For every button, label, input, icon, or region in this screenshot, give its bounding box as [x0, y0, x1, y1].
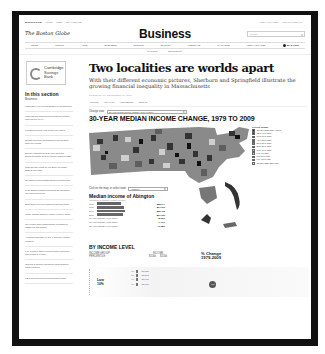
col-percentile: PERCENTILE: [89, 255, 110, 258]
byline: GLOBE STAFF DECEMBER 18, 2011: [89, 94, 307, 96]
sidebar-link[interactable]: Mass Dept's Commercial funds for trusted…: [25, 115, 73, 125]
nav-business[interactable]: BUSINESS: [104, 44, 116, 47]
sidebar-link[interactable]: Avoiding marriage in No. 1 unfilled Home…: [25, 236, 73, 246]
search-icon[interactable]: ⌕: [301, 32, 303, 37]
saved-icon: [283, 44, 286, 47]
sidebar-link[interactable]: GM report rises as Berkshire investment …: [25, 223, 73, 233]
sidebar-link[interactable]: Test says women members must support fur…: [25, 263, 73, 273]
sidebar-link[interactable]: L.C. Penney stock declines after reducin…: [25, 250, 73, 260]
nav-opinion[interactable]: OPINION: [160, 44, 170, 47]
income-scale-low: $100k: [149, 255, 156, 258]
income-graphic: Change view: 30-year median income chang…: [89, 110, 307, 310]
nav-news[interactable]: NEWS: [31, 44, 38, 47]
login-link[interactable]: LOG IN / SIGN UP: [282, 21, 302, 24]
col-change-years: 1979-2009: [201, 256, 221, 260]
sidebar-subheading: Business: [25, 97, 81, 101]
nav-metro[interactable]: METRO: [55, 44, 64, 47]
sidebar-link[interactable]: Motorists eyes on just Boston T-92 tamer…: [25, 105, 73, 112]
nav-magazine[interactable]: MAGAZINE: [217, 44, 230, 47]
tool-signin[interactable]: SIGN IN: [139, 101, 147, 103]
income-rows: 7923,526 8923,293 9923,788 0922,700: [129, 269, 149, 287]
tool-graphic[interactable]: GRAPHIC: [104, 101, 114, 103]
by-income-table: Low 10% 7923,526 8923,293 9923,788 0922,…: [89, 267, 309, 297]
by-income-columns: INCOME GROUP PERCENTILE INCOME $100k$200…: [89, 252, 309, 263]
sidebar-link[interactable]: RJ official counters$aid Boring controve…: [25, 179, 73, 186]
my-saved-label: MY SAVED: [287, 44, 299, 47]
legend-title: Percent change: [252, 126, 307, 128]
by-income-section: BY INCOME LEVEL INCOME GROUP PERCENTILE …: [89, 244, 309, 297]
cambridge-savings-ad[interactable]: Cambridge Savings Bank: [26, 61, 66, 85]
browser-page: BOSTON.COM HOME JOBS REAL ESTATE TODAY'S…: [19, 15, 311, 339]
income-scale-high: $200k: [160, 255, 167, 258]
cape-cod-map[interactable]: [197, 180, 247, 230]
change-view-select[interactable]: 30-year median income change, 1979 to 20…: [107, 110, 187, 114]
sidebar-link[interactable]: Stocks continue downward trend as Dow fa…: [25, 139, 73, 149]
tool-comments[interactable]: COMMENTS: [120, 101, 133, 103]
my-saved-button[interactable]: MY SAVED: [283, 44, 299, 47]
town-subheading: (adjusted for inflation, in 2009 dollars…: [89, 199, 125, 201]
nav-lifestyle[interactable]: LIFESTYLE: [188, 44, 201, 47]
percentile-scale: [89, 269, 91, 295]
search-placeholder: Search: [250, 33, 258, 36]
map-legend: Percent change Greater than than +100% 7…: [252, 126, 307, 165]
town-select[interactable]: Abington: [128, 187, 168, 191]
todays-paper-link[interactable]: TODAY'S PAPER: [260, 21, 279, 24]
search-input[interactable]: Search ⌕: [247, 31, 305, 37]
income-group-label: Low 10%: [97, 278, 104, 286]
sidebar-link[interactable]: Jobless rate holds to low 2009 as Mass. …: [25, 166, 73, 176]
main-nav: NEWS METRO ARTS BUSINESS SPORTS OPINION …: [25, 42, 305, 49]
change-badge: -3.5%: [209, 281, 216, 288]
ad-line3: Bank: [44, 75, 64, 80]
home-link[interactable]: HOME: [45, 21, 52, 24]
sidebar-link[interactable]: Mass. adopts NCSI in inquiry fresh in 20…: [25, 213, 73, 220]
sidebar-link[interactable]: US prices hit feeling as surprises grow: [25, 277, 73, 284]
nav-sports[interactable]: SPORTS: [134, 44, 144, 47]
sidebar-link[interactable]: Energy firms Reaves Dynon says the small…: [25, 152, 73, 162]
change-view-row: Change view: 30-year median income chang…: [89, 110, 307, 114]
graphic-title: 30-YEAR MEDIAN INCOME CHANGE, 1979 TO 20…: [89, 115, 307, 122]
sidebar-link[interactable]: Pipestock joined IPO at $66 per share: [25, 129, 73, 136]
town-change-row: 30-year change (1979-2009)+6.38%: [89, 224, 165, 228]
tool-article[interactable]: ARTICLE: [89, 101, 98, 103]
headline: Two localities are worlds apart: [89, 62, 307, 75]
bank-logo-icon: [30, 68, 42, 80]
sub-nav: MARKETS TECHNOLOGY: [19, 50, 311, 55]
dek: With their different economic pictures, …: [89, 77, 307, 90]
sidebar: Cambridge Savings Bank In this section B…: [25, 61, 81, 287]
sidebar-link[interactable]: Keith Bakes resigns following $8 Readers…: [25, 189, 73, 199]
sidebar-link[interactable]: Enterprise buys on fostering special mom: [25, 203, 73, 210]
legend-item: Greater than 20% loss: [252, 162, 307, 165]
nav-arts[interactable]: ARTS: [81, 44, 87, 47]
subnav-technology[interactable]: TECHNOLOGY: [168, 50, 183, 54]
select-town-row: Click on the map, or select town: Abingt…: [89, 187, 168, 191]
massachusetts-map[interactable]: [89, 125, 259, 185]
nav-todays-paper[interactable]: TODAY'S PAPER: [247, 44, 266, 47]
by-income-heading: BY INCOME LEVEL: [89, 244, 309, 250]
select-town-label: Click on the map, or select town:: [89, 187, 126, 190]
masthead: The Boston Globe Business Search ⌕: [25, 27, 305, 41]
subnav-markets[interactable]: MARKETS: [147, 50, 158, 54]
town-income-table: 1979$55,644 1989$64,079 1999$66,790 2009…: [89, 202, 165, 228]
article: Two localities are worlds apart With the…: [89, 62, 307, 310]
article-tools: ARTICLE GRAPHIC COMMENTS SIGN IN: [89, 101, 307, 107]
income-row: 0922,700: [129, 282, 149, 286]
change-view-label: Change view:: [89, 110, 105, 113]
real-estate-link[interactable]: REAL ESTATE: [66, 21, 82, 24]
jobs-link[interactable]: JOBS: [56, 21, 62, 24]
bostoncom-link[interactable]: BOSTON.COM: [25, 21, 41, 24]
